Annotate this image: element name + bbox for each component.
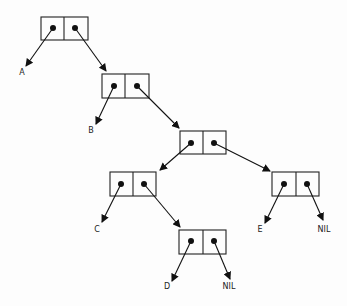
label-nil-1: NIL bbox=[318, 225, 331, 234]
cons-cell-5 bbox=[272, 172, 319, 196]
label-a: A bbox=[19, 68, 24, 77]
label-d: D bbox=[164, 282, 170, 291]
pointer-arrows bbox=[26, 28, 323, 281]
label-e: E bbox=[257, 225, 262, 234]
cons-cell-3 bbox=[180, 131, 226, 154]
label-c: C bbox=[94, 225, 100, 234]
cons-cell-diagram: A B C E NIL D NIL bbox=[0, 0, 347, 306]
diagram-drawing bbox=[0, 0, 347, 306]
label-nil-2: NIL bbox=[223, 282, 236, 291]
cons-cell-2 bbox=[102, 74, 149, 98]
label-b: B bbox=[88, 126, 94, 135]
